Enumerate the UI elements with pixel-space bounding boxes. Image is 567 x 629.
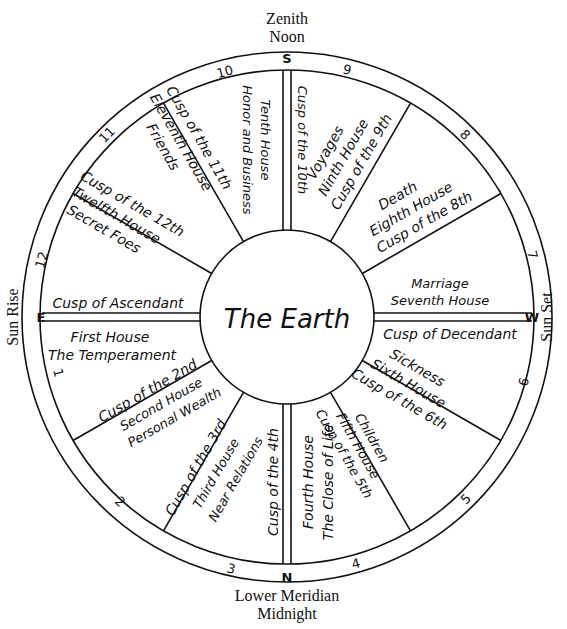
ring-number-5: 5 [458,491,474,507]
ring-number-9: 9 [341,61,353,78]
house-4-cusp: Cusp of the 4th [265,428,281,536]
house-10: Cusp of the 10th Tenth House Honor and B… [240,85,310,215]
house-1-cusp: Cusp of Ascendant [52,295,184,311]
midnight-label: Midnight [257,605,317,623]
house-1-meaning: The Temperament [48,347,177,363]
house-1-name: First House [71,329,150,345]
lower-meridian-label: Lower Meridian [235,587,339,604]
ring-number-3: 3 [225,560,237,577]
house-10-cusp: Cusp of the 10th [295,86,310,194]
house-4-name: Fourth House [300,435,316,529]
noon-label: Noon [269,28,305,45]
house-1: Cusp of Ascendant First House The Temper… [48,295,184,363]
center-label: The Earth [224,304,350,334]
ring-number-7: 7 [524,249,541,261]
sun-set-label: Sun Set [538,292,555,342]
compass-east-letter: E [37,310,46,325]
house-8: Death Eighth House Cusp of the 8th [355,157,474,256]
house-7-name: Seventh House [391,293,489,308]
house-3: Cusp of the 3rd Third House Near Relatio… [162,413,267,538]
house-7: Marriage Seventh House Cusp of Decendant [383,276,517,342]
zenith-label: Zenith [266,10,308,27]
sun-rise-label: Sun Rise [4,288,21,345]
house-7-meaning: Marriage [411,276,469,291]
ring-number-6: 6 [515,376,532,388]
compass-north-letter: N [282,570,293,585]
house-11: Cusp of the 11th Eleventh House Friends [131,82,235,210]
astrological-houses-diagram: The Earth S N E W Zenith Noon Lower Meri… [0,0,567,629]
house-7-cusp: Cusp of Decendant [383,326,517,342]
ring-number-11: 11 [96,124,118,146]
ring-number-10: 10 [215,62,235,81]
house-4: Cusp of the 4th Fourth House The Close o… [265,424,336,540]
house-10-name: Tenth House [258,100,273,181]
ring-number-4: 4 [350,555,362,572]
ring-number-2: 2 [112,494,128,510]
house-10-meaning: Honor and Business [240,85,255,215]
ring-number-1: 1 [50,367,67,379]
compass-south-letter: S [282,51,291,66]
